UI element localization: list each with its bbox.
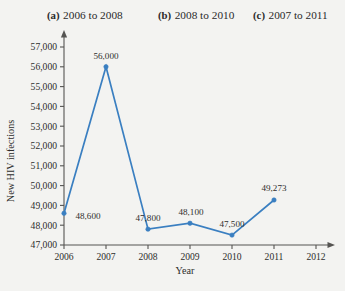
data-point: [272, 198, 276, 202]
data-point: [230, 233, 234, 237]
cut-off-text-strip: [0, 0, 345, 5]
data-point-label: 56,000: [93, 51, 118, 61]
y-tick-label: 55,000: [31, 81, 58, 92]
data-point-label: 49,273: [261, 183, 286, 193]
x-axis: [64, 242, 335, 249]
x-tick-label: 2009: [180, 251, 199, 262]
y-tick-label: 51,000: [31, 160, 58, 171]
y-tick-label: 52,000: [31, 140, 58, 151]
choice-c-label: 2007 to 2011: [268, 9, 327, 21]
y-tick-label: 57,000: [31, 41, 58, 52]
y-tick-label: 54,000: [31, 101, 58, 112]
data-point: [146, 227, 150, 231]
x-tick-label: 2011: [265, 251, 284, 262]
data-point: [62, 211, 66, 215]
y-tick-label: 47,000: [31, 239, 58, 250]
y-axis-title: New HIV infections: [5, 120, 16, 202]
y-tick-label: 49,000: [31, 200, 58, 211]
x-tick-label: 2012: [306, 251, 325, 262]
hiv-infections-line-chart: 57,00056,00055,00054,00053,00052,00051,0…: [0, 24, 345, 291]
data-point-labels: 48,60056,00047,80048,10047,50049,273: [75, 51, 286, 229]
y-tick-label: 53,000: [31, 121, 58, 132]
choice-a-tag: (a): [47, 9, 60, 21]
data-point-label: 47,500: [219, 219, 244, 229]
x-tick-label: 2006: [54, 251, 73, 262]
data-point: [104, 65, 108, 69]
data-point-label: 48,600: [75, 211, 100, 221]
y-tick-labels: 57,00056,00055,00054,00053,00052,00051,0…: [31, 41, 58, 250]
series-line: [64, 67, 274, 235]
x-tick-label: 2008: [138, 251, 157, 262]
answer-choices: (a)2006 to 2008 (b)2008 to 2010 (c)2007 …: [0, 7, 345, 25]
x-axis-title: Year: [176, 265, 195, 276]
x-tick-label: 2010: [222, 251, 241, 262]
choice-b-label: 2008 to 2010: [175, 9, 235, 21]
choice-c-tag: (c): [253, 9, 265, 21]
answer-choice-c[interactable]: (c)2007 to 2011: [253, 7, 328, 23]
chart-canvas: 57,00056,00055,00054,00053,00052,00051,0…: [0, 24, 345, 291]
y-tick-label: 56,000: [31, 61, 58, 72]
x-tick-labels: 2006200720082009201020112012: [54, 251, 325, 262]
answer-choice-b[interactable]: (b)2008 to 2010: [158, 7, 234, 23]
data-point-label: 47,800: [135, 213, 160, 223]
y-tick-label: 48,000: [31, 220, 58, 231]
choice-a-label: 2006 to 2008: [63, 9, 123, 21]
answer-choice-a[interactable]: (a)2006 to 2008: [47, 7, 123, 23]
x-tick-label: 2007: [96, 251, 115, 262]
data-series: [64, 67, 274, 235]
y-tick-label: 50,000: [31, 180, 58, 191]
data-point-label: 48,100: [178, 207, 203, 217]
choice-b-tag: (b): [158, 9, 171, 21]
data-point: [188, 221, 192, 225]
